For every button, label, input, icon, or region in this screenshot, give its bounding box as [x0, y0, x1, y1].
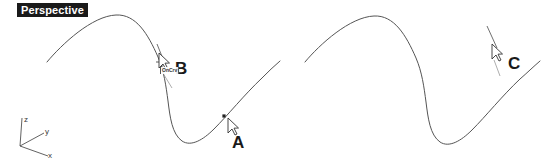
x-axis-label: x	[48, 152, 52, 160]
viewport-title-label[interactable]: Perspective	[17, 3, 88, 17]
marker-layer	[156, 44, 503, 135]
drag-line-c-lower	[494, 60, 500, 76]
viewport-canvas[interactable]	[0, 0, 551, 161]
callout-label-c: C	[508, 55, 520, 72]
perspective-viewport[interactable]: Perspective z y x A B C OnCrv	[0, 0, 551, 161]
drag-line-group	[157, 26, 500, 88]
z-axis-label: z	[24, 116, 28, 124]
x-axis	[20, 146, 48, 156]
z-axis	[20, 118, 22, 146]
y-axis	[20, 133, 44, 146]
curve-group	[47, 15, 540, 144]
osnap-tooltip: OnCrv	[160, 67, 179, 74]
osnap-point-marker-a	[222, 114, 225, 117]
mouse-cursor-c	[492, 44, 503, 61]
y-axis-label: y	[45, 128, 49, 136]
right-curve[interactable]	[305, 16, 540, 144]
left-curve[interactable]	[47, 15, 280, 143]
callout-label-a: A	[232, 134, 244, 151]
